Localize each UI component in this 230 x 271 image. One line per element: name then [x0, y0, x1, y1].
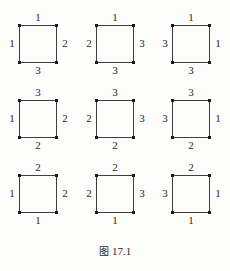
edge-label-left: 1	[6, 188, 18, 199]
corner-dot-br	[132, 211, 135, 214]
edge-label-left: 2	[83, 38, 95, 49]
edge-label-bottom: 3	[32, 65, 44, 76]
corner-dot-tr	[55, 174, 58, 177]
corner-dot-tl	[171, 174, 174, 177]
edge-label-top: 3	[32, 87, 44, 98]
edge-label-left: 1	[6, 113, 18, 124]
corner-dot-bl	[95, 61, 98, 64]
edge-label-left: 3	[159, 188, 171, 199]
edge-label-right: 1	[212, 38, 224, 49]
square-cell: 1133	[153, 15, 229, 90]
edge-label-top: 2	[109, 162, 121, 173]
corner-dot-br	[132, 136, 135, 139]
square-3	[172, 25, 210, 63]
edge-label-bottom: 1	[185, 215, 197, 226]
edge-label-bottom: 2	[109, 140, 121, 151]
square-cell: 2113	[153, 165, 229, 240]
edge-label-bottom: 1	[32, 215, 44, 226]
corner-dot-tl	[18, 99, 21, 102]
edge-label-top: 2	[32, 162, 44, 173]
corner-dot-br	[55, 61, 58, 64]
edge-label-top: 3	[185, 87, 197, 98]
corner-dot-tl	[171, 99, 174, 102]
square-grid: 123113321133322133223123221123122113	[0, 0, 230, 240]
corner-dot-bl	[171, 61, 174, 64]
corner-dot-bl	[18, 136, 21, 139]
edge-label-bottom: 3	[185, 65, 197, 76]
corner-dot-bl	[95, 211, 98, 214]
edge-label-right: 2	[59, 113, 71, 124]
edge-label-bottom: 1	[109, 215, 121, 226]
corner-dot-tr	[208, 99, 211, 102]
square-cell: 1332	[77, 15, 153, 90]
edge-label-right: 3	[136, 113, 148, 124]
edge-label-right: 1	[212, 188, 224, 199]
caption-label: 图	[99, 246, 109, 257]
square-cell: 2312	[77, 165, 153, 240]
corner-dot-br	[132, 61, 135, 64]
edge-label-left: 2	[83, 188, 95, 199]
corner-dot-tr	[132, 24, 135, 27]
edge-label-left: 2	[83, 113, 95, 124]
edge-label-bottom: 2	[32, 140, 44, 151]
edge-label-left: 3	[159, 113, 171, 124]
corner-dot-tr	[55, 99, 58, 102]
edge-label-right: 2	[59, 188, 71, 199]
corner-dot-tl	[95, 99, 98, 102]
square-4	[19, 100, 57, 138]
corner-dot-tl	[18, 24, 21, 27]
square-cell: 1231	[0, 15, 76, 90]
square-2	[96, 25, 134, 63]
corner-dot-tl	[171, 24, 174, 27]
corner-dot-bl	[18, 61, 21, 64]
edge-label-bottom: 2	[185, 140, 197, 151]
corner-dot-br	[55, 136, 58, 139]
figure-caption: 图17.1	[0, 244, 230, 259]
corner-dot-br	[55, 211, 58, 214]
square-cell: 3123	[153, 90, 229, 165]
edge-label-right: 1	[212, 113, 224, 124]
corner-dot-br	[208, 136, 211, 139]
edge-label-top: 1	[109, 12, 121, 23]
corner-dot-tr	[132, 99, 135, 102]
edge-label-left: 3	[159, 38, 171, 49]
corner-dot-tl	[95, 24, 98, 27]
square-7	[19, 175, 57, 213]
edge-label-right: 3	[136, 38, 148, 49]
corner-dot-bl	[171, 211, 174, 214]
edge-label-top: 1	[185, 12, 197, 23]
caption-number: 17.1	[112, 245, 131, 257]
corner-dot-tr	[132, 174, 135, 177]
square-5	[96, 100, 134, 138]
square-6	[172, 100, 210, 138]
edge-label-left: 1	[6, 38, 18, 49]
corner-dot-tl	[95, 174, 98, 177]
figure-root: 123113321133322133223123221123122113 图17…	[0, 0, 230, 271]
corner-dot-tr	[208, 24, 211, 27]
edge-label-top: 2	[185, 162, 197, 173]
corner-dot-bl	[18, 211, 21, 214]
corner-dot-br	[208, 211, 211, 214]
edge-label-right: 3	[136, 188, 148, 199]
corner-dot-bl	[171, 136, 174, 139]
edge-label-right: 2	[59, 38, 71, 49]
edge-label-top: 1	[32, 12, 44, 23]
corner-dot-tl	[18, 174, 21, 177]
edge-label-top: 3	[109, 87, 121, 98]
corner-dot-br	[208, 61, 211, 64]
square-1	[19, 25, 57, 63]
square-9	[172, 175, 210, 213]
square-cell: 2211	[0, 165, 76, 240]
square-8	[96, 175, 134, 213]
corner-dot-tr	[55, 24, 58, 27]
square-cell: 3221	[0, 90, 76, 165]
edge-label-bottom: 3	[109, 65, 121, 76]
corner-dot-bl	[95, 136, 98, 139]
corner-dot-tr	[208, 174, 211, 177]
square-cell: 3322	[77, 90, 153, 165]
